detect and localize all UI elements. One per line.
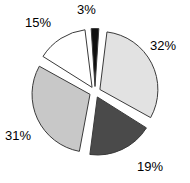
pie-slice-3[interactable] [91,29,99,87]
pie-label-32: 32% [150,39,176,52]
pie-label-15: 15% [25,16,51,29]
pie-label-19: 19% [137,160,163,173]
pie-chart: 32% 19% 31% 15% 3% [0,0,190,183]
pie-slices-group [32,29,158,155]
pie-label-3: 3% [77,3,96,16]
pie-label-31: 31% [5,129,31,142]
